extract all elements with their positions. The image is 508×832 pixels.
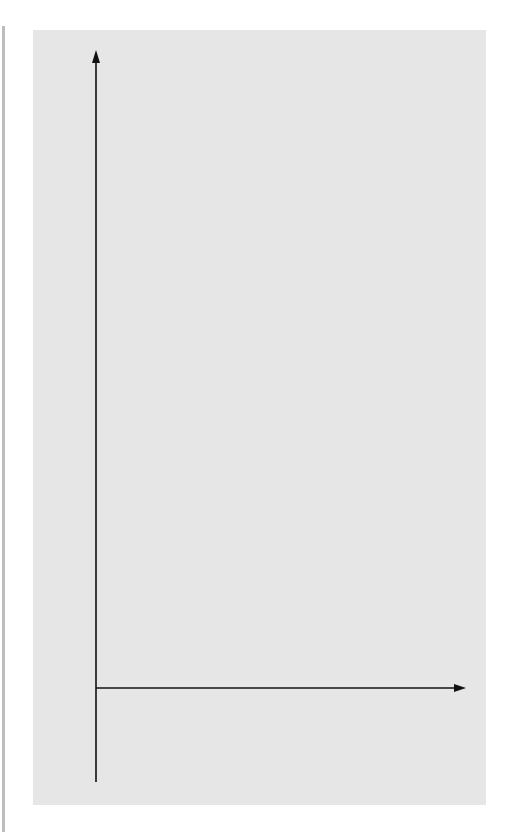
axes [92, 50, 466, 782]
y-axis-arrow-icon [92, 50, 100, 63]
chart-canvas [0, 0, 508, 832]
x-axis-arrow-icon [454, 684, 466, 692]
